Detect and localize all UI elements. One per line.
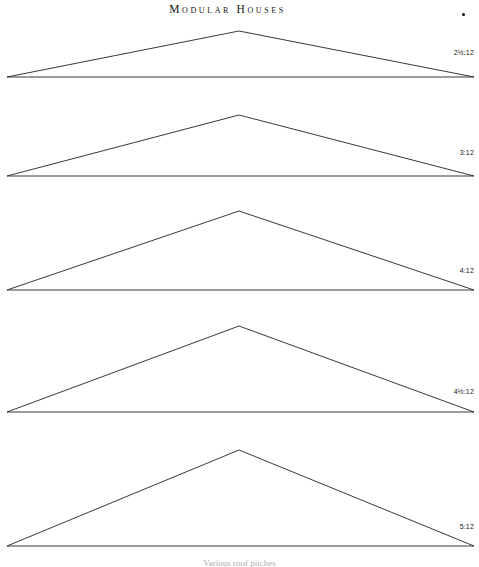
roof-pitch-triangle <box>7 450 474 546</box>
roof-pitch-triangle <box>7 115 474 176</box>
pitch-ratio-label: 5:12 <box>364 522 474 531</box>
roof-pitch-triangle <box>7 326 474 412</box>
corner-bullet-icon <box>462 13 465 16</box>
pitch-shape-group <box>7 31 474 546</box>
page-title: Modular Houses <box>0 2 455 16</box>
page-root: Modular Houses 2½:123:124:124½:125:12 Va… <box>0 0 479 567</box>
pitch-ratio-label: 4:12 <box>364 266 474 275</box>
bottom-caption: Various roof pitches <box>0 558 479 567</box>
roof-pitch-diagram <box>0 0 479 567</box>
pitch-ratio-label: 4½:12 <box>364 387 474 396</box>
pitch-ratio-label: 2½:12 <box>364 48 474 57</box>
pitch-ratio-label: 3:12 <box>364 148 474 157</box>
roof-pitch-svg <box>0 0 479 567</box>
roof-pitch-triangle <box>7 211 474 290</box>
